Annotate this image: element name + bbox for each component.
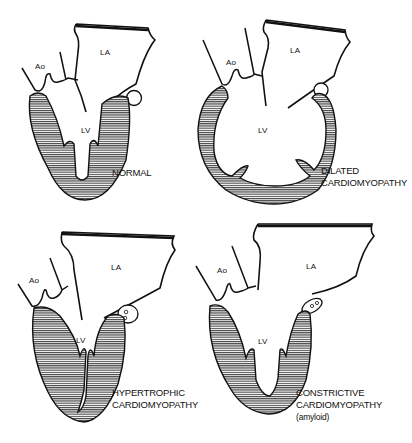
dilated-la-label: LA bbox=[290, 46, 300, 55]
normal-la-label: LA bbox=[100, 48, 110, 57]
normal-caption: NORMAL bbox=[112, 167, 151, 179]
left-atrium-outline bbox=[254, 224, 375, 294]
caption-line: CARDIOMYOPATHY bbox=[296, 399, 382, 411]
caption-line: CONSTRICTIVE bbox=[296, 387, 382, 399]
aorta-outline bbox=[22, 52, 78, 91]
constrictive-la-label: LA bbox=[306, 262, 316, 271]
normal-lv-label: LV bbox=[81, 126, 91, 135]
hypertrophic-aorta-label: Ao bbox=[29, 276, 39, 285]
panel-constrictive bbox=[196, 224, 374, 414]
caption-line: CARDIOMYOPATHY bbox=[112, 399, 198, 411]
left-atrium-outline bbox=[61, 232, 175, 320]
heart-diagrams-svg bbox=[0, 0, 412, 443]
aorta-outline bbox=[18, 258, 68, 306]
dilated-caption: DILATED CARDIOMYOPATHY bbox=[321, 165, 407, 189]
lv-wall bbox=[29, 93, 129, 200]
constrictive-lv-label: LV bbox=[258, 337, 268, 346]
lv-wall bbox=[198, 86, 336, 204]
dilated-lv-label: LV bbox=[258, 126, 268, 135]
dilated-aorta-label: Ao bbox=[226, 58, 236, 67]
caption-subtitle: (amyloid) bbox=[296, 411, 382, 423]
caption-line: CARDIOMYOPATHY bbox=[321, 177, 407, 189]
aorta-outline bbox=[203, 28, 262, 85]
caption-line: DILATED bbox=[321, 165, 407, 177]
hypertrophic-la-label: LA bbox=[111, 263, 121, 272]
hypertrophic-lv-label: LV bbox=[76, 336, 86, 345]
constrictive-caption: CONSTRICTIVE CARDIOMYOPATHY (amyloid) bbox=[296, 387, 382, 423]
hypertrophic-caption: HYPERTROPHIC CARDIOMYOPATHY bbox=[112, 387, 198, 411]
constrictive-aorta-label: Ao bbox=[217, 266, 227, 275]
left-atrium-outline bbox=[262, 20, 350, 108]
normal-aorta-label: Ao bbox=[35, 62, 45, 71]
caption-line: HYPERTROPHIC bbox=[112, 387, 198, 399]
